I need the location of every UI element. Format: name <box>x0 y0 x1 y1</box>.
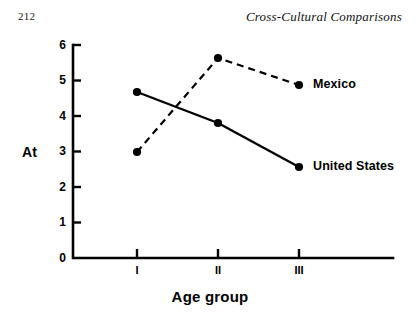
y-tick-label-2: 2 <box>52 180 66 194</box>
y-tick-label-1: 1 <box>52 215 66 229</box>
data-point-us-ii <box>214 119 222 127</box>
data-point-mexico-ii <box>214 54 222 62</box>
x-tick-label-ii: II <box>198 264 238 276</box>
series-line-united-states <box>133 88 303 171</box>
x-axis-title: Age group <box>0 288 420 305</box>
x-tick-label-iii: III <box>279 264 319 276</box>
data-point-mexico-i <box>133 148 141 156</box>
y-tick-label-5: 5 <box>52 73 66 87</box>
series-line-mexico <box>133 54 303 156</box>
data-point-us-i <box>133 88 141 96</box>
data-point-mexico-iii <box>295 81 303 89</box>
series-label-mexico: Mexico <box>313 77 356 91</box>
data-point-us-iii <box>295 163 303 171</box>
x-tick-label-i: I <box>117 264 157 276</box>
page-canvas: 212 Cross-Cultural Comparisons <box>0 0 420 319</box>
y-tick-label-0: 0 <box>52 251 66 265</box>
y-axis-title: At <box>22 144 37 160</box>
line-chart-figure: 6 5 4 3 2 1 0 I II III At Age group Mexi… <box>0 0 420 319</box>
y-tick-label-4: 4 <box>52 109 66 123</box>
y-tick-label-6: 6 <box>52 38 66 52</box>
x-axis-ticks <box>137 249 299 258</box>
series-label-united-states: United States <box>313 159 394 173</box>
y-tick-label-3: 3 <box>52 144 66 158</box>
